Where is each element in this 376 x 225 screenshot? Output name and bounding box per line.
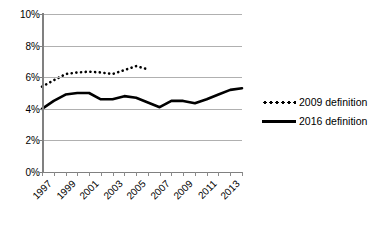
x-tick-mark: [160, 172, 161, 176]
x-tick-label: 2009: [171, 178, 195, 202]
x-tick-mark: [77, 172, 78, 176]
x-tick-label: 2005: [124, 178, 148, 202]
x-tick-label: 2003: [101, 178, 125, 202]
x-tick-mark: [89, 172, 90, 176]
y-tick-mark: [38, 77, 43, 78]
y-tick-mark: [38, 109, 43, 110]
x-tick-mark: [242, 172, 243, 176]
legend-label-2009: 2009 definition: [299, 96, 367, 108]
y-tick-label: 6%: [4, 72, 40, 83]
legend-label-2016: 2016 definition: [299, 115, 367, 127]
x-tick-label: 2013: [219, 178, 243, 202]
series-path: [42, 88, 242, 109]
plot-area: [42, 14, 242, 172]
y-tick-label: 10%: [4, 9, 40, 20]
x-tick-mark: [207, 172, 208, 176]
y-tick-mark: [38, 14, 43, 15]
gridline: [42, 14, 242, 15]
gridline: [42, 77, 242, 78]
x-tick-label: 2007: [148, 178, 172, 202]
legend-item-2009: 2009 definition: [262, 92, 374, 111]
y-tick-mark: [38, 46, 43, 47]
series-lines: [42, 14, 242, 172]
x-tick-mark: [113, 172, 114, 176]
x-tick-mark: [171, 172, 172, 176]
x-tick-label: 2011: [195, 178, 218, 201]
legend-dotted-line-icon: [262, 97, 296, 107]
y-tick-label: 8%: [4, 40, 40, 51]
legend-item-2016: 2016 definition: [262, 111, 374, 130]
y-tick-mark: [38, 140, 43, 141]
x-tick-mark: [195, 172, 196, 176]
y-tick-label: 2%: [4, 135, 40, 146]
x-tick-mark: [124, 172, 125, 176]
chart-legend: 2009 definition 2016 definition: [262, 92, 374, 130]
gridline: [42, 140, 242, 141]
y-tick-mark: [38, 172, 43, 173]
x-tick-mark: [148, 172, 149, 176]
y-tick-label: 0%: [4, 167, 40, 178]
x-tick-mark: [230, 172, 231, 176]
x-tick-mark: [101, 172, 102, 176]
x-tick-label: 2001: [77, 178, 101, 202]
x-tick-mark: [54, 172, 55, 176]
x-tick-label: 1999: [54, 178, 78, 202]
gridline: [42, 46, 242, 47]
gridline: [42, 109, 242, 110]
legend-solid-line-icon: [262, 116, 296, 126]
line-chart: 0%2%4%6%8%10% 19971999200120032005200720…: [0, 0, 376, 225]
x-tick-mark: [218, 172, 219, 176]
x-axis-line: [42, 172, 243, 173]
y-tick-label: 4%: [4, 103, 40, 114]
x-tick-mark: [183, 172, 184, 176]
x-tick-mark: [136, 172, 137, 176]
y-axis-line: [42, 13, 44, 173]
x-tick-mark: [66, 172, 67, 176]
